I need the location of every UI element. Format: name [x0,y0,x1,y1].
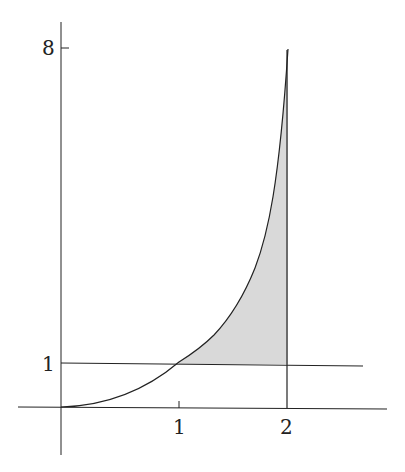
y-tick-label-1: 1 [42,354,55,374]
graph-canvas [0,0,405,472]
x-axis [18,407,387,409]
x-tick-label-2: 2 [280,417,293,437]
x-tick-label-1: 1 [173,417,186,437]
y-tick-label-8: 8 [42,38,55,58]
